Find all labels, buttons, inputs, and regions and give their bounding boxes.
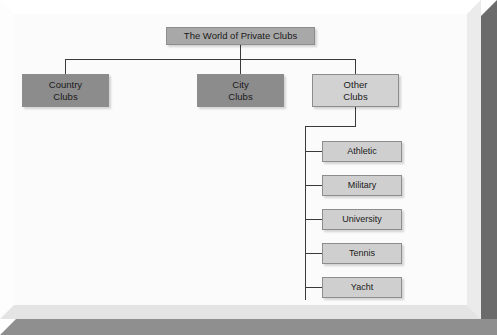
connector-stub-university: [305, 219, 322, 220]
connector-drop-city: [240, 59, 241, 74]
node-university-label: University: [342, 214, 382, 225]
node-yacht-label: Yacht: [351, 282, 373, 293]
node-tennis[interactable]: Tennis: [322, 243, 402, 264]
connector-stub-military: [305, 185, 322, 186]
frame-bevel-left: [0, 0, 14, 319]
connector-stub-tennis: [305, 253, 322, 254]
node-country-clubs[interactable]: Country Clubs: [22, 74, 109, 107]
node-country-clubs-label-line2: Clubs: [49, 91, 82, 102]
node-university[interactable]: University: [322, 209, 402, 230]
node-other-clubs-label-line2: Clubs: [343, 91, 367, 102]
connector-other-elbow: [305, 126, 356, 127]
connector-stub-yacht: [305, 287, 322, 288]
node-athletic-label: Athletic: [347, 146, 377, 157]
node-athletic[interactable]: Athletic: [322, 141, 402, 162]
plaque-shadow-right: [481, 0, 497, 335]
node-root[interactable]: The World of Private Clubs: [166, 27, 315, 45]
connector-stub-athletic: [305, 151, 322, 152]
frame-bevel-top: [0, 0, 481, 14]
node-city-clubs[interactable]: City Clubs: [197, 74, 284, 107]
node-tennis-label: Tennis: [349, 248, 375, 259]
node-country-clubs-label-line1: Country: [49, 79, 82, 90]
node-military[interactable]: Military: [322, 175, 402, 196]
node-city-clubs-label-line2: Clubs: [228, 91, 252, 102]
connector-level2-bus: [65, 59, 355, 60]
plaque-frame: The World of Private Clubs Country Clubs…: [0, 0, 481, 319]
node-military-label: Military: [348, 180, 377, 191]
node-other-clubs-label-line1: Other: [343, 79, 367, 90]
node-city-clubs-label-line1: City: [228, 79, 252, 90]
connector-leaf-spine: [305, 126, 306, 300]
connector-other-drop: [355, 107, 356, 126]
node-yacht[interactable]: Yacht: [322, 277, 402, 298]
node-other-clubs[interactable]: Other Clubs: [312, 74, 399, 107]
connector-drop-country: [65, 59, 66, 74]
frame-bevel-bottom: [0, 305, 481, 319]
org-chart-canvas: The World of Private Clubs Country Clubs…: [14, 14, 467, 305]
connector-root-drop: [240, 44, 241, 59]
plaque-background: The World of Private Clubs Country Clubs…: [0, 0, 497, 335]
plaque-shadow-bottom: [0, 319, 497, 335]
connector-drop-other: [355, 59, 356, 74]
frame-bevel-right: [467, 0, 481, 319]
node-root-label: The World of Private Clubs: [184, 30, 297, 41]
